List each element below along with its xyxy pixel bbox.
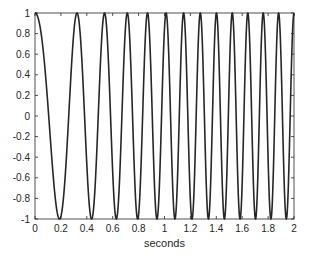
x-tick-label: 1	[162, 223, 168, 234]
x-tick-label: 0.2	[54, 223, 68, 234]
x-tick-label: 0	[32, 223, 38, 234]
x-axis-label: seconds	[144, 237, 185, 249]
y-tick-label: 0.4	[16, 69, 30, 80]
y-tick-label: 0.2	[16, 90, 30, 101]
y-tick-label: -0.2	[13, 131, 31, 142]
x-tick-label: 2	[291, 223, 297, 234]
x-tick-label: 0.4	[80, 223, 94, 234]
x-tick-label: 1.6	[235, 223, 249, 234]
x-tick-label: 0.6	[106, 223, 120, 234]
y-tick-label: -1	[21, 214, 30, 225]
y-tick-label: -0.8	[13, 193, 31, 204]
y-tick-label: 1	[24, 8, 30, 19]
chart: 00.20.40.60.811.21.41.61.82 10.80.60.40.…	[0, 0, 311, 259]
x-tick-label: 1.8	[261, 223, 275, 234]
y-tick-label: -0.6	[13, 172, 31, 183]
y-tick-label: 0.6	[16, 49, 30, 60]
plot-area: 00.20.40.60.811.21.41.61.82 10.80.60.40.…	[13, 8, 297, 235]
x-tick-label: 0.8	[132, 223, 146, 234]
y-tick-label: 0.8	[16, 28, 30, 39]
y-tick-label: -0.4	[13, 152, 31, 163]
x-tick-label: 1.4	[209, 223, 223, 234]
x-tick-label: 1.2	[183, 223, 197, 234]
y-tick-label: 0	[24, 111, 30, 122]
